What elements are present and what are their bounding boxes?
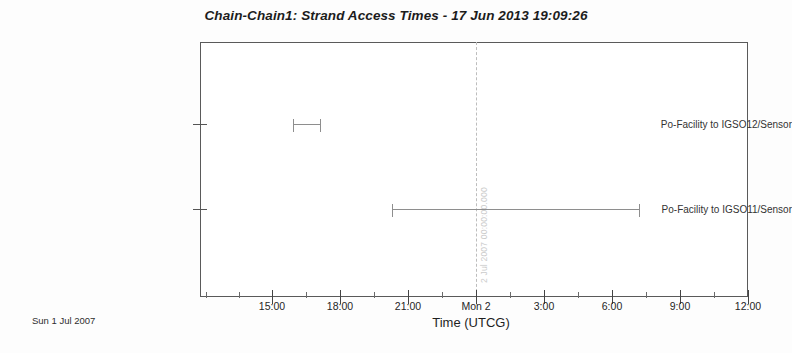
access-interval-bar [392,209,640,210]
plot-area [200,42,748,297]
x-axis-tick-label: 3:00 [534,300,554,312]
footer-date: Sun 1 Jul 2007 [32,315,95,326]
x-axis-minor-tick [646,292,647,298]
x-axis-tick-label: Mon 2 [461,300,490,312]
x-axis-tick-label: 21:00 [395,300,421,312]
epoch-marker-line [476,42,477,297]
x-axis-minor-tick [510,292,511,298]
y-axis-label-igso12: Po-Facility to IGSO12/Sensor [612,119,792,130]
access-interval-right-cap [639,204,640,217]
x-axis-minor-tick [714,292,715,298]
x-axis-minor-tick [239,292,240,298]
access-interval-left-cap [293,119,294,132]
page-title: Chain-Chain1: Strand Access Times - 17 J… [0,8,792,23]
x-axis-tick-label: 18:00 [327,300,353,312]
epoch-marker-label: 2 Jul 2007 00:00:00.000 [479,187,489,283]
access-interval-left-cap [392,204,393,217]
x-axis-minor-tick [442,292,443,298]
x-axis-tick-label: 15:00 [259,300,285,312]
x-axis-minor-tick [306,292,307,298]
x-axis-tick-label: 9:00 [670,300,690,312]
y-axis-tick-igso12 [193,124,207,125]
y-axis-tick-igso11 [193,209,207,210]
x-axis-title: Time (UTCG) [0,315,792,330]
access-interval-right-cap [320,119,321,132]
x-axis-minor-tick [206,292,207,298]
access-interval-bar [293,124,321,125]
x-axis-tick-label: 6:00 [602,300,622,312]
x-axis-minor-tick [578,292,579,298]
x-axis-minor-tick [374,292,375,298]
x-axis-tick-label: 12:00 [735,300,761,312]
